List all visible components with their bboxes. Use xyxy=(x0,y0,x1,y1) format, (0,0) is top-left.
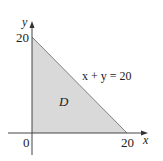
region-label: D xyxy=(59,95,68,108)
origin-label: 0 xyxy=(23,136,30,149)
y-axis-arrow-icon xyxy=(30,21,35,28)
x-axis-label: x xyxy=(143,134,148,146)
line-equation-label: x + y = 20 xyxy=(82,70,132,82)
y-axis-label: y xyxy=(22,16,27,28)
y-tick-label: 20 xyxy=(16,31,29,44)
region-diagram: y 20 x + y = 20 D 0 20 x xyxy=(0,0,163,161)
x-tick-label: 20 xyxy=(121,136,134,149)
